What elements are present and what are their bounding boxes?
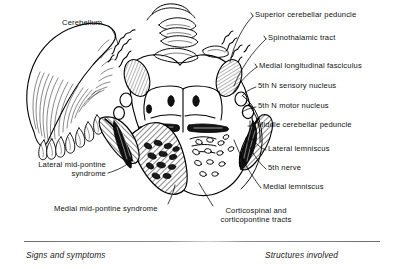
pontine-nuclei-right xyxy=(192,134,235,178)
label-superior-cerebellar-peduncle: Superior cerebellar peduncle xyxy=(255,10,356,19)
label-cerebellum: Cerebellum xyxy=(62,18,102,27)
label-lateral-lemniscus: Lateral lemniscus xyxy=(268,144,330,153)
caption-structures-involved: Structures involved xyxy=(265,250,338,260)
fifth-nerve-nucleus-contra xyxy=(146,105,151,113)
footer-divider xyxy=(24,241,380,242)
fifth-nerve-root-right xyxy=(235,92,254,119)
label-lateral-mid-pontine-syndrome: Lateral mid-pontine syndrome xyxy=(2,160,106,178)
fifth-nerve-motor-nucleus xyxy=(193,96,199,107)
caption-signs-and-symptoms: Signs and symptoms xyxy=(26,250,106,260)
label-5th-n-motor-nucleus: 5th N motor nucleus xyxy=(258,101,329,110)
figure-canvas: Cerebellum Lateral mid-pontine syndrome … xyxy=(0,0,404,269)
fifth-nerve-sensory-nucleus xyxy=(168,96,174,107)
label-medial-lemniscus: Medial lemniscus xyxy=(263,182,324,191)
label-corticospinal-corticopontine-tracts: Corticospinal and corticopontine tracts xyxy=(196,206,316,224)
cerebellar-vermis xyxy=(147,4,228,63)
label-spinothalamic-tract: Spinothalamic tract xyxy=(268,33,335,42)
label-5th-n-sensory-nucleus: 5th N sensory nucleus xyxy=(258,81,336,90)
cerebellum-shape xyxy=(27,23,116,160)
fifth-nerve-root-left xyxy=(114,93,132,119)
label-medial-mid-pontine-syndrome: Medial mid-pontine syndrome xyxy=(54,204,158,213)
brainstem-cross-section-drawing xyxy=(0,0,404,269)
label-5th-nerve: 5th nerve xyxy=(268,163,301,172)
label-medial-longitudinal-fasciculus: Medial longitudinal fasciculus xyxy=(259,61,362,70)
label-middle-cerebellar-peduncle: Middle cerebellar peduncle xyxy=(257,120,352,129)
leader-tick-marks xyxy=(251,13,266,67)
